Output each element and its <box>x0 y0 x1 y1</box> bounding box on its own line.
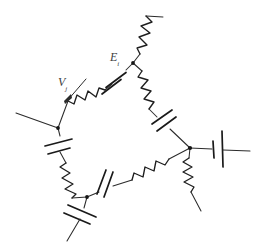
stub-right-node-resistor <box>183 148 201 211</box>
resistor-top-left-branch <box>68 88 105 104</box>
capacitor-plate-long-l <box>45 139 72 146</box>
wire-top-stub-upper <box>146 16 163 17</box>
battery-plate-short <box>213 141 214 158</box>
stub-right-node-battery <box>190 131 250 167</box>
resistor-left-branch <box>60 163 76 198</box>
branch-top-node-to-left-node <box>58 63 133 128</box>
resistor-bottom-branch <box>132 159 169 180</box>
wire-rd-b <box>191 192 201 211</box>
voltage-label: Vj <box>58 76 67 91</box>
node-dot-top <box>131 61 135 65</box>
capacitor-plate-short-bl <box>64 213 90 224</box>
wire-b-b <box>113 180 132 186</box>
wire-b-c <box>169 148 190 159</box>
capacitor-plate-long-tl <box>106 73 126 88</box>
capacitor-plate-short-tl <box>102 80 121 95</box>
stub-left-node-wire <box>16 113 58 128</box>
wire-tl-c <box>58 101 68 128</box>
capacitor-plate-short-l <box>48 148 70 154</box>
capacitor-plate-long-bl <box>68 205 96 217</box>
branch-left-node-to-bottom-left-node <box>45 128 87 198</box>
wire-l-c <box>72 197 87 198</box>
battery-plate-long <box>222 131 223 167</box>
capacitor-plate-long-b <box>104 172 113 197</box>
stub-top-node-resistor <box>133 16 163 63</box>
wire-bl-b <box>67 219 80 241</box>
resistor-top-right-branch <box>138 71 154 109</box>
branch-top-node-to-right-node <box>133 63 190 148</box>
wire-left-stub <box>16 113 58 128</box>
circuit-figure: Vj Ei <box>0 0 260 249</box>
wire-tr-b <box>149 109 157 117</box>
branch-bottom-left-node-to-right-node <box>87 148 190 197</box>
node-dot-left <box>56 126 60 130</box>
resistor-right-down-stub <box>183 158 194 192</box>
wire-batt-a <box>190 148 212 149</box>
resistor-top-stub <box>137 16 152 54</box>
node-dot-right <box>188 146 192 150</box>
wire-tr-c <box>170 129 190 148</box>
stub-bottom-left-node-capacitor <box>64 197 96 241</box>
capacitor-plate-short-b <box>97 170 106 194</box>
wire-batt-b <box>223 150 250 151</box>
circuit-drawing-canvas <box>0 0 260 249</box>
wire-l-b <box>60 152 66 163</box>
emf-label: Ei <box>110 51 119 66</box>
node-dot-bottom-left <box>85 195 89 199</box>
